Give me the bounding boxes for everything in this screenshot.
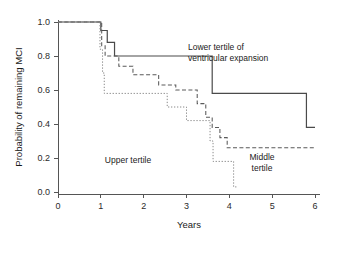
figure-container: 0.00.20.40.60.81.0 0123456 Years Probabi… — [0, 0, 340, 253]
y-tick-label: 0.2 — [37, 153, 50, 163]
x-tick-label: 2 — [141, 201, 146, 211]
x-tick-label: 3 — [184, 201, 189, 211]
y-tick-label: 0.4 — [37, 119, 50, 129]
y-tick-label: 0.8 — [37, 51, 50, 61]
y-axis-title: Probability of remaining MCI — [13, 47, 24, 166]
x-tick-label: 4 — [227, 201, 232, 211]
annotation-middle-tertile-line2: tertile — [252, 163, 273, 173]
y-tick-label: 1.0 — [37, 17, 50, 27]
y-tick-label: 0.6 — [37, 85, 50, 95]
y-tick-label: 0.0 — [37, 187, 50, 197]
x-tick-label: 0 — [55, 201, 60, 211]
annotation-upper-tertile: Upper tertile — [105, 155, 152, 165]
annotation-lower-tertile-line2: ventricular expansion — [188, 53, 269, 63]
x-tick-label: 1 — [98, 201, 103, 211]
x-tick-label: 5 — [270, 201, 275, 211]
annotation-middle-tertile-line1: Middle — [249, 152, 274, 162]
kaplan-meier-chart: 0.00.20.40.60.81.0 0123456 Years Probabi… — [0, 0, 340, 253]
x-axis-title: Years — [177, 219, 201, 230]
annotation-lower-tertile-line1: Lower tertile of — [188, 42, 244, 52]
x-tick-label: 6 — [312, 201, 317, 211]
chart-background — [0, 0, 340, 253]
